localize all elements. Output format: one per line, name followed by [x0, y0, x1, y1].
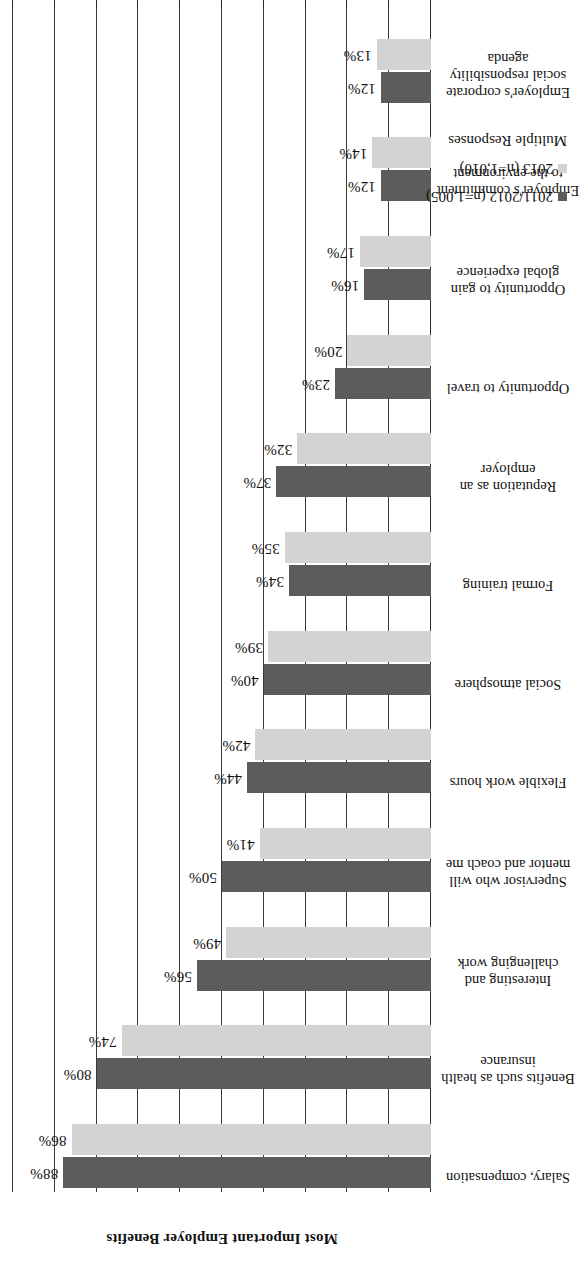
bar-value-label: 50%: [189, 870, 217, 885]
axis-tick: [388, 0, 389, 8]
bar-series-1: [377, 39, 431, 70]
bar-group: 34%35%: [13, 501, 431, 600]
bar-group: 12%13%: [13, 8, 431, 107]
bar-series-0: [63, 1157, 431, 1188]
bar-series-0: [364, 269, 431, 300]
bar-value-label: 49%: [193, 936, 221, 951]
bar-series-1: [268, 631, 431, 662]
plot-area: 88%86%80%74%56%49%50%41%44%42%40%39%34%3…: [13, 8, 431, 1192]
category-label: Employer's corporate social responsibili…: [435, 50, 581, 101]
axis-tick: [221, 0, 222, 8]
category-label: Benefits such as health insurance: [435, 1053, 581, 1087]
category-label: Supervisor who will mentor and coach me: [435, 856, 581, 890]
bar-series-1: [285, 532, 431, 563]
bar-value-label: 12%: [348, 179, 376, 194]
bar-value-label: 13%: [344, 48, 372, 63]
bar-value-label: 20%: [314, 344, 342, 359]
bar-series-1: [255, 729, 431, 760]
axis-tick: [54, 0, 55, 8]
bar-series-1: [260, 828, 431, 859]
bar-value-label: 17%: [327, 245, 355, 260]
bar-value-label: 44%: [214, 771, 242, 786]
bar-series-0: [381, 72, 431, 103]
bar-series-0: [247, 762, 431, 793]
bar-series-0: [381, 170, 431, 201]
legend-swatch-series-1: [558, 164, 567, 173]
bar-series-1: [347, 335, 431, 366]
bar-group: 44%42%: [13, 699, 431, 798]
value-axis-title: Most Important Employer Benefits: [13, 1230, 431, 1247]
bar-series-0: [197, 960, 431, 991]
category-label: Opportunity to gain global experience: [435, 264, 581, 298]
bar-value-label: 41%: [227, 837, 255, 852]
category-label: Flexible work hours: [435, 774, 581, 791]
bar-value-label: 80%: [64, 1067, 92, 1082]
bar-series-0: [264, 664, 431, 695]
bar-value-label: 39%: [235, 640, 263, 655]
bar-value-label: 14%: [339, 146, 367, 161]
bar-value-label: 35%: [252, 541, 280, 556]
axis-tick: [305, 0, 306, 8]
bar-value-label: 12%: [348, 81, 376, 96]
bar-series-1: [360, 236, 431, 267]
category-label: Interesting and challenging work: [435, 955, 581, 989]
bar-value-label: 23%: [302, 377, 330, 392]
legend-note: Multiple Responses: [447, 133, 567, 149]
bar-group: 80%74%: [13, 995, 431, 1094]
bar-group: 88%86%: [13, 1093, 431, 1192]
bar-series-1: [226, 927, 431, 958]
bar-value-label: 40%: [231, 673, 259, 688]
bar-value-label: 88%: [30, 1166, 58, 1181]
bar-value-label: 37%: [243, 475, 271, 490]
chart-legend: 2011/2012 (n=1,005) 2013 (n=1,010) Multi…: [447, 133, 567, 205]
bar-series-0: [335, 368, 431, 399]
axis-tick: [12, 0, 13, 8]
axis-tick: [263, 0, 264, 8]
bar-series-1: [122, 1025, 431, 1056]
axis-tick: [96, 0, 97, 8]
bar-series-1: [297, 433, 431, 464]
bar-series-1: [72, 1124, 431, 1155]
bar-series-0: [289, 565, 431, 596]
legend-label-series-0: 2011/2012 (n=1,005): [426, 189, 553, 205]
axis-tick: [346, 0, 347, 8]
legend-label-series-1: 2013 (n=1,010): [460, 161, 553, 177]
bar-value-label: 86%: [38, 1133, 66, 1148]
axis-tick: [137, 0, 138, 8]
legend-item: 2011/2012 (n=1,005): [447, 189, 567, 205]
category-label: Social atmosphere: [435, 676, 581, 693]
bar-group: 40%39%: [13, 600, 431, 699]
legend-swatch-series-0: [558, 192, 567, 201]
bar-value-label: 56%: [164, 969, 192, 984]
bar-group: 56%49%: [13, 896, 431, 995]
bar-series-0: [97, 1058, 431, 1089]
category-label: Salary, compensation: [435, 1169, 581, 1186]
bar-group: 23%20%: [13, 304, 431, 403]
bar-value-label: 34%: [256, 574, 284, 589]
category-label: Reputation as an employer: [435, 461, 581, 495]
bar-group: 12%14%: [13, 107, 431, 206]
legend-item: 2013 (n=1,010): [447, 161, 567, 177]
axis-tick: [179, 0, 180, 8]
chart-figure: Most Important Employer Benefits 88%86%8…: [0, 0, 581, 1265]
bar-value-label: 42%: [222, 738, 250, 753]
bar-series-0: [276, 466, 431, 497]
bar-series-1: [372, 137, 431, 168]
bar-group: 50%41%: [13, 797, 431, 896]
category-label: Formal training: [435, 577, 581, 594]
bar-group: 16%17%: [13, 205, 431, 304]
bar-value-label: 32%: [264, 442, 292, 457]
bar-value-label: 74%: [89, 1034, 117, 1049]
axis-tick: [430, 0, 431, 8]
bar-group: 37%32%: [13, 403, 431, 502]
bar-value-label: 16%: [331, 278, 359, 293]
category-label: Opportunity to travel: [435, 380, 581, 397]
bar-series-0: [222, 861, 431, 892]
